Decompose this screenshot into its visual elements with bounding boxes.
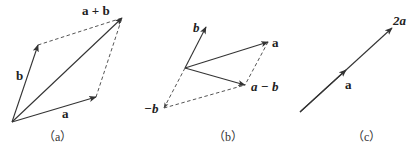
label-b: b (193, 21, 200, 34)
panel-c (300, 28, 392, 112)
dashed-b-to-sum (38, 18, 122, 45)
dashed-negb-to-diff (164, 85, 245, 108)
label-diff: a − b (251, 80, 278, 93)
label-b: b (16, 69, 23, 82)
caption-a: （a） (43, 131, 72, 143)
panel-b (164, 27, 268, 108)
vector-a-arrow-icon (300, 70, 346, 112)
label-a: a (272, 36, 279, 49)
vector-neg-b-arrow-icon (164, 68, 185, 108)
vector-a-arrow-icon (185, 42, 268, 68)
label-2a: 2a (393, 14, 406, 27)
label-a: a (62, 107, 69, 120)
label-neg-b: −b (144, 102, 158, 115)
label-sum: a + b (82, 4, 110, 17)
label-a: a (345, 78, 352, 91)
vector-diff-arrow-icon (185, 68, 245, 85)
caption-c: （c） (352, 131, 381, 143)
caption-b: （b） (213, 131, 243, 143)
